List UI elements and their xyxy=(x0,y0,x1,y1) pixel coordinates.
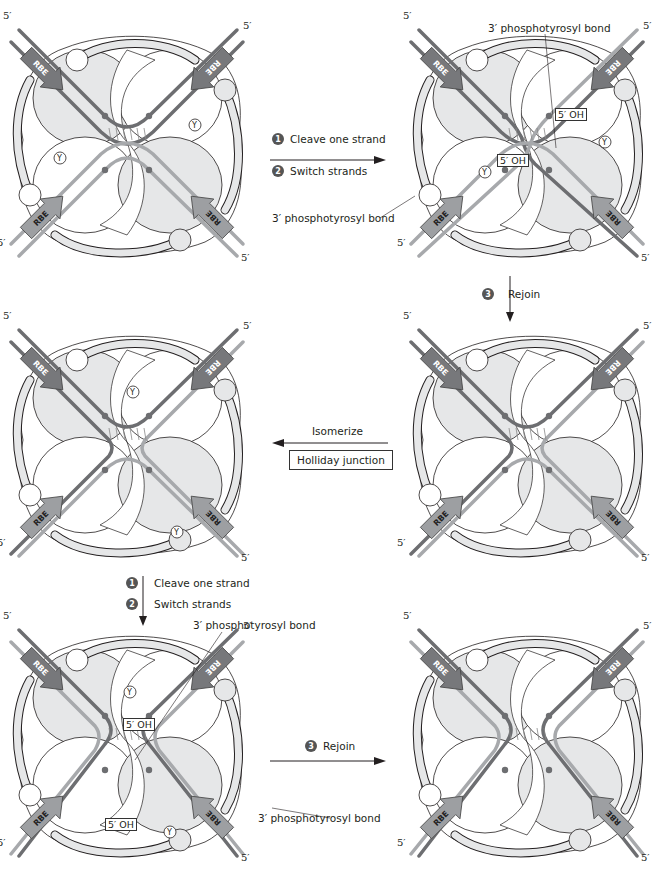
leader-lines xyxy=(0,0,654,889)
